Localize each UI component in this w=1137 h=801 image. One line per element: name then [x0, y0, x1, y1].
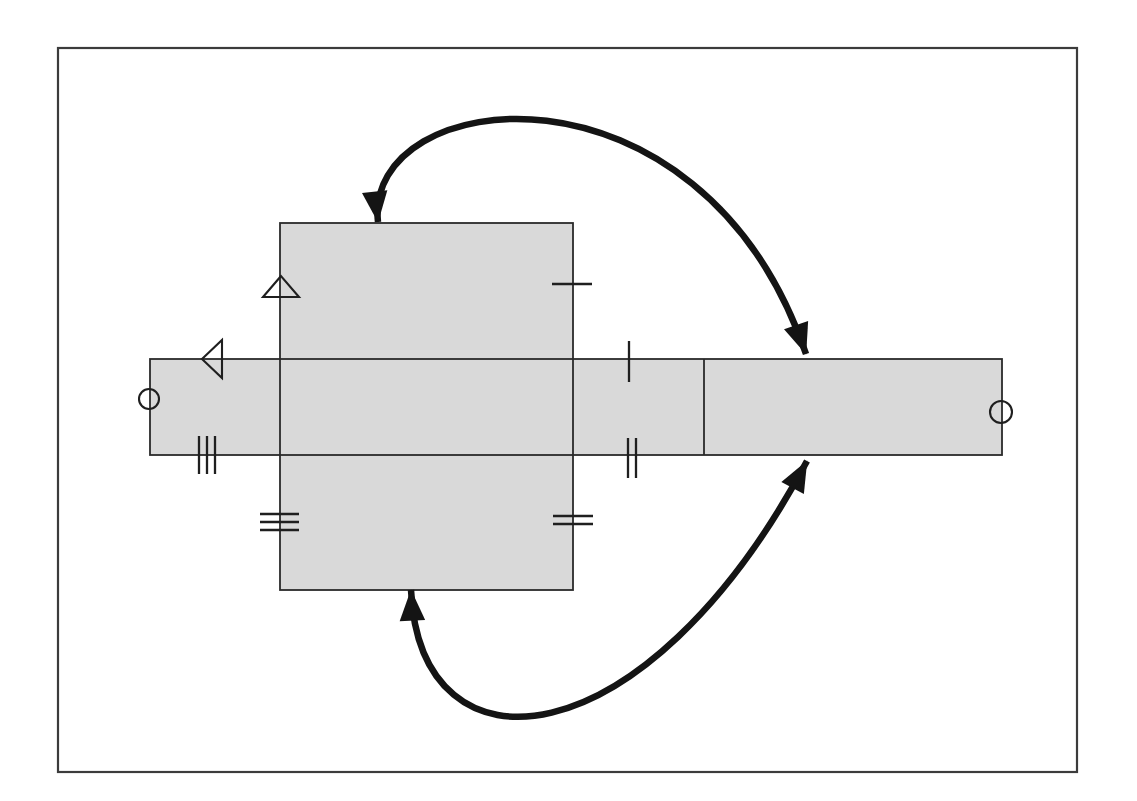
strip-fill — [150, 359, 1002, 455]
diagram-svg — [0, 0, 1137, 801]
panel-fill — [280, 223, 573, 590]
diagram-page — [0, 0, 1137, 801]
